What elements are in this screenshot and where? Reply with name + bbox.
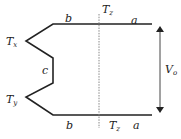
diagram-canvas: b a Tz Tx c Ty b a Tz Vo [0,0,181,139]
label-bottom-tz: Tz [109,119,120,133]
label-top-b: b [65,12,72,25]
label-ty: Ty [6,93,18,107]
label-top-a: a [131,14,138,27]
label-bottom-b: b [66,119,73,132]
label-tx: Tx [6,35,17,49]
label-vo: Vo [165,63,177,77]
label-c: c [42,64,48,77]
label-bottom-a: a [133,119,140,132]
label-top-tz: Tz [102,3,113,17]
